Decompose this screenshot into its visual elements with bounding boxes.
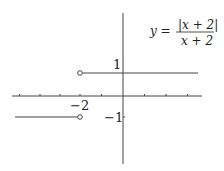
equation-lhs: y = bbox=[149, 24, 171, 38]
chart: −2 1 −1 y = |x + 2| x + 2 bbox=[0, 0, 224, 171]
equation-label: y = |x + 2| x + 2 bbox=[149, 18, 218, 48]
open-circle-lower bbox=[78, 115, 83, 120]
open-circle-upper bbox=[78, 71, 83, 76]
y-tick-label-1: 1 bbox=[113, 57, 121, 72]
equation-numerator: |x + 2| bbox=[178, 18, 218, 32]
equation-denominator: x + 2 bbox=[181, 34, 213, 48]
y-tick-label-minus1: −1 bbox=[104, 110, 123, 125]
x-tick-label-minus2: −2 bbox=[70, 98, 89, 113]
